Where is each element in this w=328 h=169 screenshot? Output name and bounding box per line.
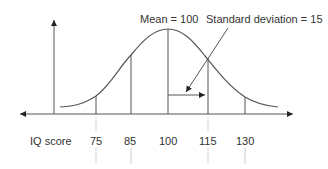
tick-label-75: 75 <box>90 135 102 147</box>
tick-label-130: 130 <box>236 135 254 147</box>
sd-label: Standard deviation = 15 <box>206 13 323 25</box>
sd-pointer <box>186 28 228 92</box>
x-axis-label: IQ score <box>30 135 72 147</box>
tick-label-100: 100 <box>159 135 177 147</box>
normal-curve-diagram: Mean = 100 Standard deviation = 15 IQ sc… <box>0 0 328 169</box>
tick-label-115: 115 <box>199 135 217 147</box>
mean-label: Mean = 100 <box>140 13 198 25</box>
tick-label-85: 85 <box>124 135 136 147</box>
